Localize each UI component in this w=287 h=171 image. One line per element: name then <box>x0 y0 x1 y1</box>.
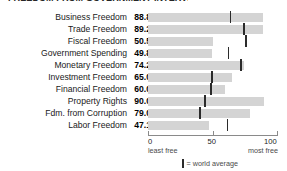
legend: = world average <box>182 158 238 169</box>
table-row: Trade Freedom89.2▲ <box>0 23 287 35</box>
table-row: Government Spending49.8▽ <box>0 47 287 59</box>
row-label: Investment Freedom <box>48 71 127 83</box>
score-bar <box>148 61 244 70</box>
axis-tick-label: 0 <box>148 137 152 146</box>
score-bar <box>148 49 212 58</box>
table-row: Fdm. from Corruption79.0▽ <box>0 107 287 119</box>
table-row: Business Freedom88.8▲ <box>0 11 287 23</box>
table-row: Labor Freedom47.1▽ <box>0 119 287 131</box>
table-row: Investment Freedom65.0▲ <box>0 71 287 83</box>
axis-tick-label: 100 <box>264 137 277 146</box>
score-bar <box>148 13 263 22</box>
table-row: Monetary Freedom74.2▽ <box>0 59 287 71</box>
row-label: Monetary Freedom <box>54 59 127 71</box>
row-label: Labor Freedom <box>68 119 127 131</box>
world-average-tick <box>230 11 232 23</box>
axis-tick <box>148 131 149 136</box>
table-row: Financial Freedom60.0— <box>0 83 287 95</box>
row-plot <box>148 35 277 47</box>
score-bar <box>148 85 225 94</box>
world-average-marker-icon <box>182 159 184 168</box>
row-label: Trade Freedom <box>68 23 127 35</box>
world-average-tick <box>240 59 242 71</box>
axis-tick <box>277 131 278 136</box>
row-plot <box>148 107 277 119</box>
row-plot <box>148 71 277 83</box>
axis-captions: least freemost free <box>0 146 287 156</box>
x-axis <box>148 131 277 136</box>
row-label: Fdm. from Corruption <box>45 107 127 119</box>
world-average-tick <box>199 107 201 119</box>
axis-tick-label: 50 <box>208 137 216 146</box>
row-label: Fiscal Freedom <box>68 35 127 47</box>
row-label: Government Spending <box>41 47 127 59</box>
row-plot <box>148 119 277 131</box>
row-plot <box>148 95 277 107</box>
score-bar <box>148 121 209 130</box>
legend-label: = world average <box>187 159 238 168</box>
page-title: FREEDOM FROM GOVERNMENT INTERVENTION <box>8 0 188 3</box>
row-plot <box>148 59 277 71</box>
world-average-tick <box>210 83 212 95</box>
axis-caption-right: most free <box>248 146 278 155</box>
world-average-tick <box>228 47 230 59</box>
row-plot <box>148 47 277 59</box>
row-plot <box>148 11 277 23</box>
axis-caption-left: least free <box>148 146 178 155</box>
row-plot <box>148 83 277 95</box>
chart-title-clipped: FREEDOM FROM GOVERNMENT INTERVENTION <box>8 0 188 4</box>
score-bar <box>148 73 232 82</box>
world-average-tick <box>227 119 229 131</box>
row-plot <box>148 23 277 35</box>
economic-freedom-chart: FREEDOM FROM GOVERNMENT INTERVENTION Bus… <box>0 0 287 171</box>
row-label: Business Freedom <box>55 11 127 23</box>
row-label: Property Rights <box>68 95 127 107</box>
table-row: Fiscal Freedom50.5▲ <box>0 35 287 47</box>
axis-tick <box>213 131 214 136</box>
chart-rows: Business Freedom88.8▲Trade Freedom89.2▲F… <box>0 11 287 131</box>
score-bar <box>148 37 213 46</box>
score-bar <box>148 25 263 34</box>
world-average-tick <box>245 35 247 47</box>
table-row: Property Rights90.0— <box>0 95 287 107</box>
world-average-tick <box>211 71 213 83</box>
row-label: Financial Freedom <box>56 83 127 95</box>
world-average-tick <box>204 95 206 107</box>
world-average-tick <box>243 23 245 35</box>
score-bar <box>148 97 264 106</box>
